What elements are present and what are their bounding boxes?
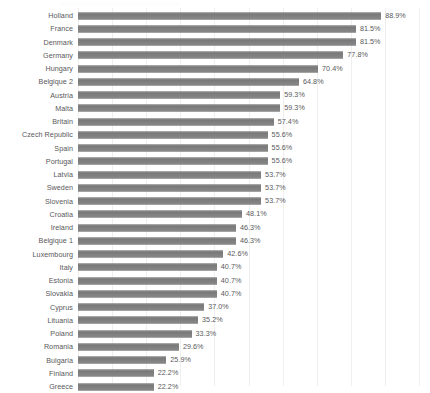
bar-row: Sweden53.7% bbox=[0, 181, 430, 194]
bar-value-label: 53.7% bbox=[265, 198, 286, 205]
bar-row: France81.5% bbox=[0, 22, 430, 35]
category-label: Britain bbox=[0, 118, 73, 125]
bar-value-label: 35.2% bbox=[202, 317, 223, 324]
category-label: Denmark bbox=[0, 39, 73, 46]
bar-track: 59.3% bbox=[73, 102, 430, 115]
bar-track: 53.7% bbox=[73, 181, 430, 194]
bar bbox=[78, 158, 268, 165]
bar-row: Poland33.3% bbox=[0, 327, 430, 340]
bar-track: 42.6% bbox=[73, 248, 430, 261]
category-label: Holland bbox=[0, 12, 73, 19]
bar-track: 22.2% bbox=[73, 367, 430, 380]
category-label: Hungary bbox=[0, 65, 73, 72]
bar-track: 25.9% bbox=[73, 354, 430, 367]
bar-value-label: 53.7% bbox=[265, 184, 286, 191]
bar bbox=[78, 131, 268, 138]
bar-value-label: 40.7% bbox=[221, 264, 242, 271]
bar bbox=[78, 237, 236, 244]
bar bbox=[78, 105, 280, 112]
bar-value-label: 81.5% bbox=[360, 39, 381, 46]
category-label: Malta bbox=[0, 105, 73, 112]
bar-row: Italy40.7% bbox=[0, 261, 430, 274]
bar-value-label: 81.5% bbox=[360, 25, 381, 32]
bar bbox=[78, 25, 356, 32]
bar-row: Denmark81.5% bbox=[0, 36, 430, 49]
category-label: Cyprus bbox=[0, 304, 73, 311]
category-label: Croatia bbox=[0, 211, 73, 218]
category-label: Germany bbox=[0, 52, 73, 59]
bar bbox=[78, 145, 268, 152]
category-label: Belgique 1 bbox=[0, 237, 73, 244]
category-label: Estonia bbox=[0, 277, 73, 284]
category-label: Greece bbox=[0, 383, 73, 390]
bar bbox=[78, 343, 179, 350]
bar bbox=[78, 330, 192, 337]
bar bbox=[78, 52, 343, 59]
bar bbox=[78, 39, 356, 46]
bar bbox=[78, 224, 236, 231]
bar-row: Luxembourg42.6% bbox=[0, 248, 430, 261]
bar-row: Ireland46.3% bbox=[0, 221, 430, 234]
bar bbox=[78, 264, 217, 271]
bar-value-label: 64.8% bbox=[303, 78, 324, 85]
bar-track: 59.3% bbox=[73, 89, 430, 102]
bar bbox=[78, 317, 198, 324]
bar-value-label: 55.6% bbox=[272, 131, 293, 138]
bar bbox=[78, 251, 223, 258]
bar-row: Spain55.6% bbox=[0, 142, 430, 155]
category-label: Latvia bbox=[0, 171, 73, 178]
category-label: Luxembourg bbox=[0, 251, 73, 258]
bar-row: Estonia40.7% bbox=[0, 274, 430, 287]
bar-track: 22.2% bbox=[73, 380, 430, 393]
bar-track: 81.5% bbox=[73, 22, 430, 35]
category-label: Belgique 2 bbox=[0, 78, 73, 85]
bar-value-label: 88.9% bbox=[385, 12, 406, 19]
bar-track: 40.7% bbox=[73, 274, 430, 287]
bar-value-label: 55.6% bbox=[272, 158, 293, 165]
bar-track: 55.6% bbox=[73, 128, 430, 141]
bar-track: 81.5% bbox=[73, 36, 430, 49]
bar-row: Cyprus37.0% bbox=[0, 301, 430, 314]
bar-value-label: 25.9% bbox=[170, 357, 191, 364]
category-label: France bbox=[0, 25, 73, 32]
bar bbox=[78, 198, 261, 205]
bar-value-label: 70.4% bbox=[322, 65, 343, 72]
bar-track: 40.7% bbox=[73, 287, 430, 300]
bar-track: 55.6% bbox=[73, 155, 430, 168]
bar-value-label: 42.6% bbox=[227, 251, 248, 258]
bar bbox=[78, 370, 154, 377]
bar-row: Slovakia40.7% bbox=[0, 287, 430, 300]
category-label: Czech Republic bbox=[0, 131, 73, 138]
bar bbox=[78, 118, 274, 125]
bar-value-label: 22.2% bbox=[158, 383, 179, 390]
bar-track: 37.0% bbox=[73, 301, 430, 314]
bar-value-label: 77.8% bbox=[347, 52, 368, 59]
bar-row: Czech Republic55.6% bbox=[0, 128, 430, 141]
bar-value-label: 37.0% bbox=[208, 304, 229, 311]
bar-value-label: 48.1% bbox=[246, 211, 267, 218]
chart-plot-area: Holland88.9%France81.5%Denmark81.5%Germa… bbox=[0, 9, 430, 393]
bar-track: 46.3% bbox=[73, 221, 430, 234]
bar bbox=[78, 65, 318, 72]
bar-row: Slovenia53.7% bbox=[0, 195, 430, 208]
category-label: Ireland bbox=[0, 224, 73, 231]
category-label: Slovakia bbox=[0, 290, 73, 297]
bar-row: Latvia53.7% bbox=[0, 168, 430, 181]
bar-row: Belgique 146.3% bbox=[0, 234, 430, 247]
bar-row: Austria59.3% bbox=[0, 89, 430, 102]
bar-track: 46.3% bbox=[73, 234, 430, 247]
bar-track: 53.7% bbox=[73, 195, 430, 208]
bar-value-label: 57.4% bbox=[278, 118, 299, 125]
bar bbox=[78, 78, 299, 85]
category-label: Sweden bbox=[0, 184, 73, 191]
bar bbox=[78, 171, 261, 178]
bar-value-label: 55.6% bbox=[272, 145, 293, 152]
bar-track: 48.1% bbox=[73, 208, 430, 221]
bar-track: 57.4% bbox=[73, 115, 430, 128]
bar-track: 53.7% bbox=[73, 168, 430, 181]
bar-row: Greece22.2% bbox=[0, 380, 430, 393]
bar-track: 55.6% bbox=[73, 142, 430, 155]
bar-row: Belgique 264.8% bbox=[0, 75, 430, 88]
bar-value-label: 40.7% bbox=[221, 277, 242, 284]
bar-row: Romania29.6% bbox=[0, 340, 430, 353]
